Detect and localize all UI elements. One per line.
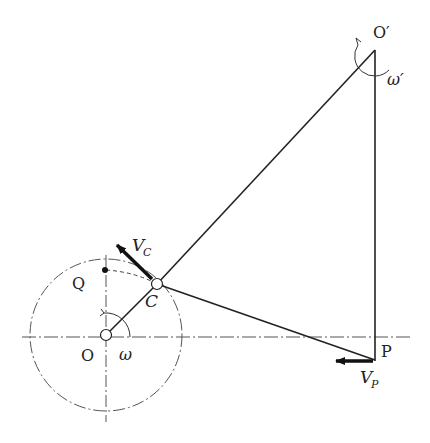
- mechanism-diagram: O C Q ω O′ ω′ P V C V P: [0, 0, 430, 443]
- label-o: O: [81, 346, 94, 365]
- label-p: P: [381, 342, 392, 361]
- label-q: Q: [72, 274, 85, 293]
- svg-text:P: P: [370, 378, 379, 391]
- label-vc: V C: [132, 235, 152, 259]
- omega-prime-rotation-arc: [355, 38, 389, 76]
- joint-c: [152, 279, 163, 290]
- label-omega-prime: ω′: [387, 70, 404, 89]
- link-c-p: [157, 284, 375, 360]
- label-vp: V P: [360, 367, 379, 391]
- label-o-prime: O′: [373, 23, 390, 42]
- label-c: C: [145, 291, 158, 311]
- pivot-o: [101, 330, 112, 341]
- point-q-dot: [102, 267, 108, 273]
- link-c-oprime: [157, 50, 375, 284]
- label-omega: ω: [119, 345, 132, 364]
- svg-text:C: C: [143, 246, 152, 259]
